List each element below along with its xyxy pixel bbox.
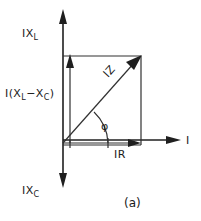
impedance-vector-arrowhead — [126, 55, 142, 70]
phasor-diagram-svg: IXL IXC I I(XL−XC) IZ IR φ (a) — [0, 0, 201, 221]
reactive-vector-label: I(XL−XC) — [5, 87, 54, 102]
impedance-vector-line — [63, 63, 134, 143]
axis-label-ixl: IXL — [22, 27, 39, 42]
axis-label-ixc: IXC — [22, 184, 40, 199]
vertical-axis-up-arrowhead — [59, 9, 67, 24]
resistive-vector-label: IR — [114, 148, 126, 161]
axis-label-i: I — [186, 134, 190, 147]
horizontal-axis-right-arrowhead — [166, 136, 181, 144]
figure-caption: (a) — [124, 196, 141, 210]
vertical-axis-down-arrowhead — [59, 173, 67, 188]
phasor-diagram-figure: IXL IXC I I(XL−XC) IZ IR φ (a) — [0, 0, 201, 221]
impedance-vector-label: IZ — [101, 63, 118, 80]
phase-angle-label: φ — [101, 120, 109, 133]
